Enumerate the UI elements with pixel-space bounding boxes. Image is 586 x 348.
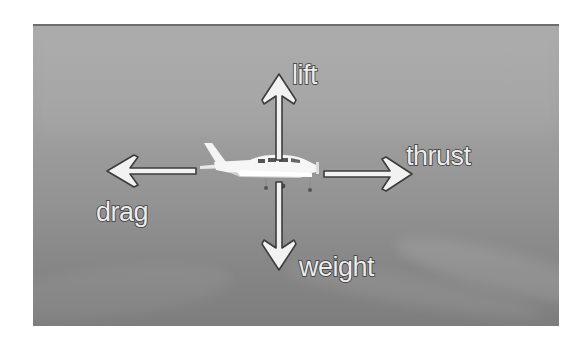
- force-diagram: lift weight thrust drag: [0, 0, 586, 348]
- thrust-arrow-icon: [324, 157, 412, 191]
- drag-arrow-icon: [107, 155, 196, 187]
- lift-arrow-icon: [262, 74, 296, 160]
- lift-label: lift: [292, 60, 318, 90]
- airplane-icon: [200, 143, 319, 192]
- weight-label: weight: [298, 252, 375, 282]
- thrust-label: thrust: [406, 141, 472, 171]
- weight-arrow-icon: [262, 182, 296, 270]
- drag-label: drag: [96, 197, 148, 227]
